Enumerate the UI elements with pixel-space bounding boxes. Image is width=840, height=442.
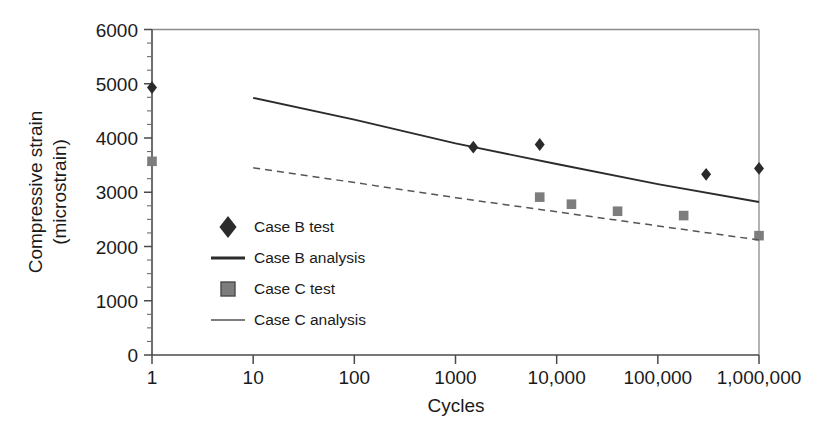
legend-label: Case B analysis: [254, 249, 365, 266]
y-axis-title-line1: Compressive strain: [25, 111, 46, 274]
x-tick-label: 1,000,000: [717, 367, 802, 388]
data-point-square: [147, 157, 157, 167]
y-tick-label: 5000: [96, 74, 138, 95]
legend-label: Case B test: [254, 218, 335, 235]
legend-label: Case C test: [254, 280, 336, 297]
legend-label: Case C analysis: [254, 311, 366, 328]
chart-legend: Case B testCase B analysisCase C testCas…: [211, 216, 366, 328]
x-axis-ticks: [152, 355, 759, 364]
data-point-diamond: [701, 168, 711, 181]
y-tick-label: 2000: [96, 237, 138, 258]
legend-item: Case C test: [221, 280, 336, 297]
legend-item: Case B analysis: [211, 249, 365, 266]
chart-canvas: 110100100010,000100,0001,000,000 0100020…: [0, 0, 840, 442]
data-point-square: [679, 211, 689, 221]
x-tick-label: 100: [338, 367, 370, 388]
data-point-square: [613, 206, 623, 216]
series-case-b-analysis: [253, 98, 759, 202]
x-tick-label: 1000: [434, 367, 476, 388]
y-axis-title-line2: (microstrain): [49, 139, 70, 245]
x-tick-label: 1: [147, 367, 158, 388]
series-case-b-test: [147, 81, 764, 181]
series-line: [253, 98, 759, 202]
plot-frame: [152, 30, 759, 356]
legend-item: Case B test: [219, 216, 334, 238]
x-tick-label: 10,000: [528, 367, 586, 388]
y-tick-label: 1000: [96, 291, 138, 312]
y-axis-ticks: [144, 30, 152, 356]
x-tick-label: 100,000: [623, 367, 692, 388]
chart-figure: 110100100010,000100,0001,000,000 0100020…: [0, 0, 840, 442]
legend-item: Case C analysis: [211, 311, 366, 328]
data-point-diamond: [535, 138, 545, 151]
data-point-square: [567, 199, 577, 209]
x-tick-label: 10: [243, 367, 264, 388]
y-tick-label: 6000: [96, 20, 138, 41]
y-tick-label: 0: [127, 345, 138, 366]
x-axis-title: Cycles: [427, 395, 484, 416]
x-axis-tick-labels: 110100100010,000100,0001,000,000: [147, 367, 802, 388]
legend-diamond-icon: [219, 216, 236, 238]
y-tick-label: 4000: [96, 128, 138, 149]
data-point-square: [535, 192, 545, 202]
data-series-group: [147, 81, 764, 240]
y-tick-label: 3000: [96, 182, 138, 203]
legend-square-icon: [221, 282, 235, 296]
data-point-diamond: [754, 162, 764, 175]
y-axis-tick-labels: 0100020003000400050006000: [96, 20, 138, 367]
